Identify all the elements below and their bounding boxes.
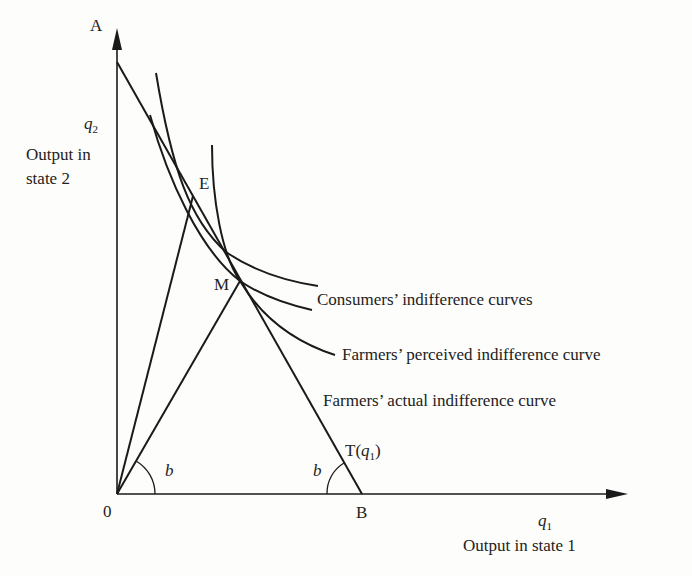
y-axis-label-line2: state 2: [26, 170, 70, 187]
t-suffix: ): [375, 441, 381, 460]
point-m-label: M: [214, 276, 229, 293]
angle-arc-b: [327, 463, 344, 494]
origin-label: 0: [103, 503, 112, 520]
y-axis-label-line1: Output in: [26, 146, 91, 163]
t-prefix: T(: [345, 441, 361, 460]
t-subscript: 1: [370, 450, 376, 462]
point-b-label: B: [356, 504, 367, 521]
y-subscript: 2: [93, 123, 99, 135]
angle-label-origin: b: [165, 462, 174, 479]
x-axis-label: Output in state 1: [463, 537, 576, 554]
t-symbol: q: [361, 441, 370, 460]
x-axis-arrow-icon: [606, 489, 628, 499]
point-a-label: A: [90, 17, 102, 34]
angle-arc-origin: [136, 461, 155, 494]
consumers-curve-label: Consumers’ indifference curves: [317, 291, 533, 308]
farmers-perceived-curve-label: Farmers’ perceived indifference curve: [342, 346, 600, 363]
transformation-curve-label: T(q1): [345, 442, 381, 459]
x-subscript: 1: [547, 520, 553, 532]
farmers-actual-curve-label: Farmers’ actual indifference curve: [323, 392, 556, 409]
x-axis-symbol: q1: [538, 512, 552, 529]
y-axis-symbol: q2: [84, 115, 98, 132]
y-axis-arrow-icon: [112, 28, 122, 50]
ray-origin-to-m: [117, 281, 240, 494]
farmers-perceived-indifference-curve: [212, 145, 335, 355]
ray-origin-to-e: [117, 196, 193, 494]
x-symbol: q: [538, 511, 547, 530]
diagram-canvas: [0, 0, 692, 576]
y-symbol: q: [84, 114, 93, 133]
consumers-indifference-curve-upper: [156, 73, 318, 286]
point-e-label: E: [199, 175, 209, 192]
angle-label-b: b: [313, 462, 322, 479]
